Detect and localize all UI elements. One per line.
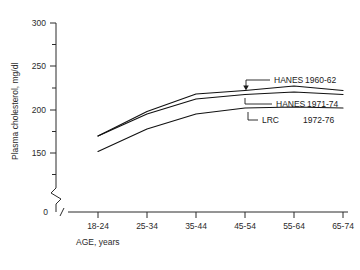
line-chart: 300 250 200 150 0 Plasma cholesterol, mg… bbox=[0, 0, 360, 270]
series-line-lrc-1972-76 bbox=[98, 107, 343, 152]
y-tick-label-300: 300 bbox=[32, 18, 46, 28]
leader-hanes-1971-74 bbox=[245, 98, 272, 104]
y-axis: 300 250 200 150 0 Plasma cholesterol, mg… bbox=[10, 18, 61, 217]
x-tick-label-18-24: 18-24 bbox=[87, 221, 109, 231]
y-axis-break-zigzag bbox=[51, 188, 61, 204]
series-label-hanes-1960-62-name: HANES bbox=[274, 75, 304, 85]
series-label-lrc-1972-76-name: LRC bbox=[262, 115, 279, 125]
x-axis: 18-24 25-34 35-44 45-54 55-64 65-74 AGE,… bbox=[60, 208, 354, 247]
y-tick-label-250: 250 bbox=[32, 61, 46, 71]
leader-lrc-1972-76 bbox=[248, 112, 258, 120]
x-tick-label-25-34: 25-34 bbox=[136, 221, 158, 231]
x-tick-label-65-74: 65-74 bbox=[332, 221, 354, 231]
x-axis-break-mark bbox=[60, 208, 64, 216]
x-tick-label-45-54: 45-54 bbox=[234, 221, 256, 231]
series-label-lrc-1972-76-years: 1972-76 bbox=[303, 115, 334, 125]
series-label-hanes-1971-74-years: 1971-74 bbox=[307, 99, 338, 109]
chart-figure: 300 250 200 150 0 Plasma cholesterol, mg… bbox=[0, 0, 360, 270]
y-tick-label-0: 0 bbox=[43, 207, 48, 217]
y-axis-title: Plasma cholesterol, mg/dl bbox=[10, 63, 20, 160]
y-tick-label-200: 200 bbox=[32, 105, 46, 115]
x-tick-label-35-44: 35-44 bbox=[185, 221, 207, 231]
series-annotations bbox=[243, 80, 272, 120]
series-annotation-labels: HANES 1960-62 HANES 1971-74 LRC 1972-76 bbox=[262, 75, 338, 125]
series-label-hanes-1960-62-years: 1960-62 bbox=[305, 75, 336, 85]
x-axis-title: AGE, years bbox=[76, 237, 119, 247]
series-label-hanes-1971-74-name: HANES bbox=[276, 99, 306, 109]
y-tick-label-150: 150 bbox=[32, 148, 46, 158]
x-tick-label-55-64: 55-64 bbox=[283, 221, 305, 231]
